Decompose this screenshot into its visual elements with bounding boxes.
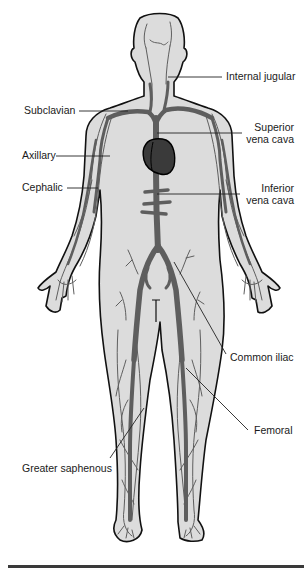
internal-jugular-vein	[150, 84, 152, 112]
bottom-rule	[8, 565, 304, 568]
label-inferior-vena-cava-line1: Inferior	[244, 182, 294, 194]
label-superior-vena-cava-line1: Superior	[246, 121, 294, 133]
label-inferior-vena-cava: Inferior vena cava	[244, 182, 294, 206]
label-cephalic: Cephalic	[22, 181, 63, 193]
label-superior-vena-cava: Superior vena cava	[246, 121, 294, 145]
label-axillary: Axillary	[22, 149, 56, 161]
vena-cava	[156, 118, 158, 250]
label-femoral: Femoral	[254, 424, 293, 436]
label-common-iliac: Common iliac	[230, 351, 294, 363]
label-inferior-vena-cava-line2: vena cava	[244, 194, 294, 206]
venous-system-diagram	[0, 0, 308, 573]
label-internal-jugular: Internal jugular	[226, 70, 295, 82]
label-subclavian: Subclavian	[24, 104, 75, 116]
label-superior-vena-cava-line2: vena cava	[246, 133, 294, 145]
label-greater-saphenous: Greater saphenous	[22, 462, 112, 474]
